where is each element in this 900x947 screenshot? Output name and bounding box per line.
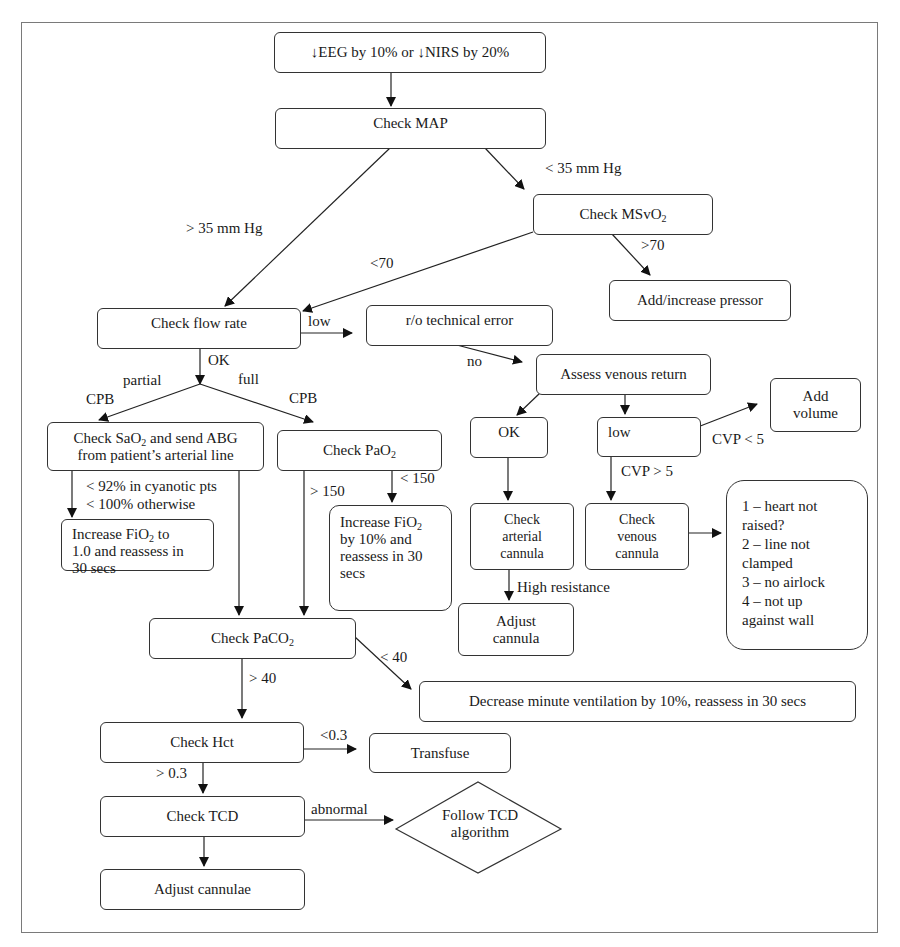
- check-pao2-node: Check PaO2: [277, 430, 442, 471]
- venous-ok-text: OK: [498, 424, 520, 441]
- check-map-node: Check MAP: [275, 108, 546, 149]
- check-flow-text: Check flow rate: [151, 315, 247, 332]
- trigger-text: ↓EEG by 10% or ↓NIRS by 20%: [311, 44, 509, 61]
- check-tcd-node: Check TCD: [100, 796, 305, 837]
- adjust-cannula-node: Adjust cannula: [458, 603, 574, 656]
- technical-error-node: r/o technical error: [366, 305, 553, 346]
- increase-fio2-full-node: Increase FiO2 to 1.0 and reassess in 30 …: [61, 519, 214, 571]
- edge-label-hct-low: <0.3: [320, 727, 347, 744]
- edge-label-paco2-high: > 40: [249, 670, 276, 687]
- venous-checklist-text: 1 – heart not raised? 2 – line not clamp…: [742, 497, 825, 630]
- check-hct-text: Check Hct: [170, 734, 234, 751]
- edge-label-pao2-low: < 150: [400, 470, 435, 487]
- increase-fio2-10-node: Increase FiO2 by 10% and reassess in 30 …: [329, 505, 452, 611]
- check-paco2-text: Check PaCO2: [211, 630, 294, 647]
- add-volume-node: Add volume: [770, 378, 861, 432]
- check-paco2-node: Check PaCO2: [149, 618, 356, 659]
- edge-label-tech-no: no: [467, 353, 482, 370]
- check-arterial-cannula-node: Check arterial cannula: [470, 503, 574, 570]
- adjust-cannula-text: Adjust cannula: [493, 613, 540, 647]
- edge-label-high-resistance: High resistance: [517, 579, 610, 596]
- follow-tcd-text: Follow TCD algorithm: [430, 807, 530, 841]
- edge-label-flow-low: low: [308, 313, 331, 330]
- assess-venous-text: Assess venous return: [560, 366, 687, 383]
- check-arterial-cannula-text: Check arterial cannula: [500, 511, 544, 562]
- check-flow-node: Check flow rate: [97, 308, 301, 349]
- edge-label-map-high: > 35 mm Hg: [186, 220, 262, 237]
- technical-error-text: r/o technical error: [406, 312, 513, 329]
- edge-label-map-low: < 35 mm Hg: [545, 160, 621, 177]
- transfuse-node: Transfuse: [369, 733, 511, 773]
- check-pao2-text: Check PaO2: [323, 442, 396, 459]
- edge-label-paco2-low: < 40: [380, 649, 407, 666]
- edge-label-msvo2-high: >70: [641, 237, 664, 254]
- decrease-ventilation-node: Decrease minute ventilation by 10%, reas…: [419, 681, 856, 722]
- edge-label-msvo2-low: <70: [370, 255, 393, 272]
- check-venous-cannula-text: Check venous cannula: [615, 511, 659, 562]
- edge-label-flow-ok: OK: [208, 352, 230, 369]
- edge-label-full-cpb: CPB: [289, 390, 317, 407]
- venous-low-text: low: [608, 424, 631, 441]
- venous-ok-node: OK: [470, 417, 548, 458]
- add-pressor-text: Add/increase pressor: [637, 292, 763, 309]
- edge-label-sao2-low-1: < 92% in cyanotic pts: [86, 478, 217, 495]
- add-volume-text: Add volume: [791, 388, 841, 422]
- edge-label-sao2-low-2: < 100% otherwise: [86, 496, 195, 513]
- check-map-text: Check MAP: [373, 115, 448, 132]
- check-sao2-text: Check SaO2 and send ABG from patient’s a…: [73, 430, 237, 464]
- decrease-ventilation-text: Decrease minute ventilation by 10%, reas…: [469, 693, 806, 710]
- check-sao2-node: Check SaO2 and send ABG from patient’s a…: [47, 422, 264, 471]
- edge-label-hct-high: > 0.3: [156, 765, 187, 782]
- edge-label-partial-cpb: CPB: [86, 391, 114, 408]
- check-hct-node: Check Hct: [100, 722, 304, 763]
- edge-label-pao2-high: > 150: [310, 483, 345, 500]
- check-venous-cannula-node: Check venous cannula: [585, 503, 689, 570]
- edge-label-cvp-low: CVP < 5: [712, 431, 764, 448]
- edge-label-partial: partial: [123, 372, 161, 389]
- venous-checklist-node: 1 – heart not raised? 2 – line not clamp…: [726, 480, 868, 650]
- edge-label-tcd-abnormal: abnormal: [311, 801, 368, 818]
- edge-label-full: full: [238, 371, 259, 388]
- increase-fio2-full-text: Increase FiO2 to 1.0 and reassess in 30 …: [72, 526, 184, 577]
- increase-fio2-10-text: Increase FiO2 by 10% and reassess in 30 …: [340, 514, 423, 582]
- check-msvo2-node: Check MSvO2: [533, 194, 713, 235]
- edge-label-cvp-high: CVP > 5: [621, 463, 673, 480]
- check-msvo2-text: Check MSvO2: [579, 206, 666, 223]
- adjust-cannulae-node: Adjust cannulae: [100, 869, 305, 910]
- assess-venous-node: Assess venous return: [536, 354, 711, 395]
- transfuse-text: Transfuse: [411, 745, 470, 762]
- add-pressor-node: Add/increase pressor: [609, 280, 791, 321]
- trigger-node: ↓EEG by 10% or ↓NIRS by 20%: [274, 32, 546, 73]
- venous-low-node: low: [597, 417, 701, 457]
- check-tcd-text: Check TCD: [167, 808, 239, 825]
- adjust-cannulae-text: Adjust cannulae: [154, 881, 251, 898]
